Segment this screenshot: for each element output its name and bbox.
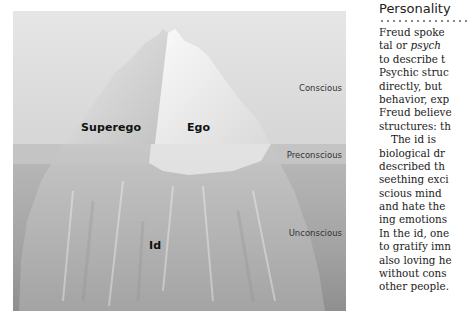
article-column: Personality Freud spoke tal or psych to …	[379, 0, 471, 294]
body-line: directly, but	[379, 80, 471, 93]
body-line: also loving he	[379, 254, 471, 267]
id-label: Id	[149, 239, 161, 252]
body-line: Freud spoke	[379, 26, 471, 39]
body-line: In the id, one	[379, 227, 471, 240]
italic-term: psych	[411, 39, 441, 51]
ego-label: Ego	[187, 121, 210, 134]
body-line: structures: th	[379, 120, 471, 133]
body-line: other people.	[379, 280, 471, 293]
body-line: described th	[379, 160, 471, 173]
section-heading: Personality	[379, 2, 471, 18]
body-line: seething exci	[379, 173, 471, 186]
body-line: biological dr	[379, 147, 471, 160]
body-line: without cons	[379, 267, 471, 280]
conscious-label: Conscious	[299, 83, 342, 93]
body-line: to gratify imn	[379, 240, 471, 253]
heading-dotted-rule	[379, 19, 469, 23]
superego-label: Superego	[81, 121, 141, 134]
body-line: and hate the	[379, 200, 471, 213]
iceberg-figure: Superego Ego Id Conscious Preconscious U…	[13, 11, 346, 311]
body-line: to describe t	[379, 53, 471, 66]
body-line: ing emotions	[379, 213, 471, 226]
body-line: behavior, exp	[379, 93, 471, 106]
iceberg-illustration	[13, 11, 346, 311]
body-line: Psychic struc	[379, 66, 471, 79]
body-line: scious mind	[379, 187, 471, 200]
preconscious-label: Preconscious	[287, 150, 342, 160]
body-line: tal or psych	[379, 39, 471, 52]
unconscious-label: Unconscious	[289, 228, 342, 238]
body-line: Freud believe	[379, 106, 471, 119]
body-line: The id is	[379, 133, 471, 146]
